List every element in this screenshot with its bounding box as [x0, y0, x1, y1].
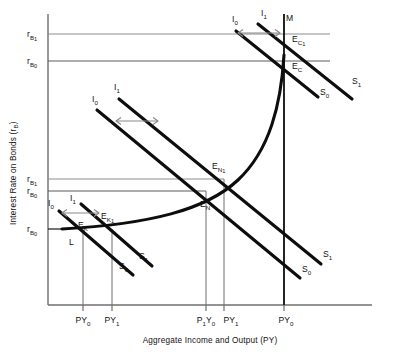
x-tick-marks — [83, 305, 284, 311]
x-tick-PY0-b: PY0 — [279, 315, 294, 327]
label-S0-intermediate: S0 — [302, 264, 312, 276]
label-EC: EC — [292, 61, 303, 73]
chart-canvas: rB1 rB0 rB1 rB0 rB0 PY0 PY1 P1Y0 PY1 PY0 — [0, 0, 394, 354]
svg-text:rB0: rB0 — [27, 186, 37, 199]
label-I0-intermediate: I0 — [92, 94, 98, 106]
label-M: M — [286, 13, 293, 23]
x-tick-PY0-a: PY0 — [76, 315, 91, 327]
label-L: L — [69, 237, 74, 247]
x-axis-title: Aggregate Income and Output (PY) — [143, 336, 278, 345]
y-tick-rB0-top: rB0 — [27, 56, 37, 69]
label-I0-keynesian: I0 — [48, 198, 54, 210]
y-tick-rB1-top: rB1 — [27, 29, 37, 42]
label-EC1: EC1 — [292, 34, 305, 47]
label-I1-keynesian: I1 — [70, 193, 76, 205]
y-tick-rB0-mid: rB0 — [27, 186, 37, 199]
svg-text:rB1: rB1 — [27, 29, 37, 42]
x-tick-PY1-a: PY1 — [105, 315, 120, 327]
label-EK: EK — [78, 220, 89, 232]
x-tick-labels: PY0 PY1 P1Y0 PY1 PY0 — [76, 315, 294, 327]
label-I1-classical: I1 — [261, 8, 267, 20]
curve-point-labels: I0 I1 M EC1 EC S0 S1 I0 I1 EN1 EN I0 I1 … — [48, 8, 362, 276]
label-S0-classical: S0 — [320, 87, 330, 99]
label-EN1: EN1 — [212, 161, 225, 174]
svg-text:rB0: rB0 — [27, 224, 37, 237]
economics-figure: rB1 rB0 rB1 rB0 rB0 PY0 PY1 P1Y0 PY1 PY0 — [0, 0, 394, 354]
label-I0-classical: I0 — [232, 14, 238, 26]
label-I1-intermediate: I1 — [114, 82, 120, 94]
shift-arrows — [62, 30, 280, 217]
horizontal-guides — [48, 34, 330, 229]
x-tick-PY1-b: PY1 — [224, 315, 239, 327]
y-tick-labels: rB1 rB0 rB1 rB0 rB0 — [27, 29, 37, 237]
label-S0-keynesian: S0 — [119, 261, 129, 273]
y-axis-title: Interest Rate on Bonds (rB) — [9, 121, 19, 225]
svg-text:rB0: rB0 — [27, 56, 37, 69]
axes — [48, 14, 372, 305]
curve-I1-S1-intermediate — [119, 99, 321, 264]
label-S1-intermediate: S1 — [323, 249, 333, 261]
y-tick-rB0-low: rB0 — [27, 224, 37, 237]
x-tick-P1Y0: P1Y0 — [197, 315, 216, 327]
label-S1-keynesian: S1 — [139, 251, 149, 263]
label-S1-classical: S1 — [352, 76, 362, 88]
shift-arrow-intermediate — [116, 118, 158, 125]
